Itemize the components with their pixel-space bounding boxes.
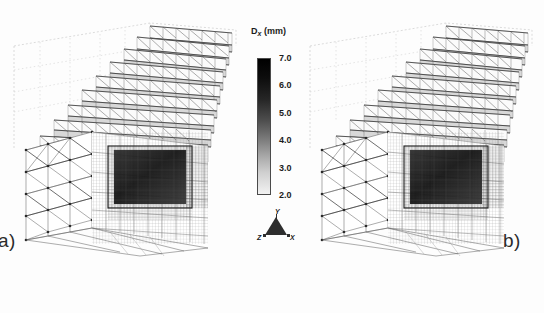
colorbar-tick-7-0: 7.0: [279, 54, 292, 63]
colorbar-title: Dx (mm): [251, 26, 303, 37]
colorbar: [257, 58, 271, 195]
colorbar-gradient: [257, 58, 271, 195]
legend-column: Dx (mm) 7.06.05.04.03.02.0 Y Z X: [249, 0, 305, 258]
axis-label-z: Z: [257, 234, 261, 241]
colorbar-tick-3-0: 3.0: [279, 164, 292, 173]
axis-node-z: [263, 234, 266, 237]
axis-label-x: X: [290, 234, 295, 241]
triangular-mesh-left-face-a: [25, 131, 94, 242]
mesh-panel-a: a): [0, 0, 250, 258]
panel-caption-a: a): [0, 230, 132, 252]
mesh-render-b: [300, 0, 544, 258]
axis-triad-icon: Y Z X: [256, 208, 298, 248]
mesh-panel-b: b): [300, 0, 544, 258]
mesh-svg-a: [0, 0, 250, 258]
colorbar-tick-2-0: 2.0: [279, 191, 292, 200]
triangular-mesh-left-face-b: [321, 131, 390, 242]
axis-triangle-marker: [265, 217, 287, 235]
mesh-render-a: [0, 0, 250, 258]
figure-canvas: a) Dx (mm) 7.06.05.04.03.02.0 Y Z X: [0, 0, 544, 313]
colorbar-tick-6-0: 6.0: [279, 81, 292, 90]
colorbar-tick-5-0: 5.0: [279, 109, 292, 118]
panel-caption-b: b): [390, 230, 544, 252]
colorbar-title-units: (mm): [261, 26, 286, 36]
colorbar-tick-4-0: 4.0: [279, 136, 292, 145]
mesh-svg-b: [300, 0, 544, 258]
